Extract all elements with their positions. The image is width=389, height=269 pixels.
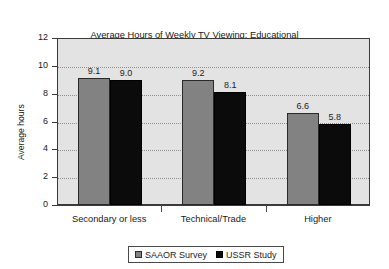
y-axis-title: Average hours (16, 148, 26, 160)
x-axis-tick-mark (161, 205, 162, 212)
bar-value-label: 8.1 (214, 80, 246, 90)
y-axis-tick-label: 4 (8, 143, 48, 153)
bar (287, 113, 319, 205)
bar (110, 80, 142, 205)
x-axis-category-label: Higher (266, 214, 370, 224)
x-axis-category-label: Secondary or less (57, 214, 161, 224)
legend-swatch-icon (216, 251, 223, 258)
y-axis-tick-label: 6 (8, 116, 48, 126)
bars-layer: 9.19.09.28.16.65.8 (57, 38, 370, 205)
bar-value-label: 9.0 (110, 68, 142, 78)
legend-label: SAAOR Survey (145, 250, 207, 260)
legend-entry: USSR Study (216, 250, 277, 260)
x-axis-line (57, 205, 370, 206)
bar-value-label: 5.8 (319, 112, 351, 122)
y-axis-tick-label: 2 (8, 171, 48, 181)
legend-entry: SAAOR Survey (135, 250, 207, 260)
legend-swatch-icon (135, 251, 142, 258)
chart-legend: SAAOR SurveyUSSR Study (128, 246, 284, 263)
bar-value-label: 9.1 (78, 66, 110, 76)
bar (319, 124, 351, 205)
x-axis-category-label: Technical/Trade (161, 214, 265, 224)
bar (214, 92, 246, 205)
bar (78, 78, 110, 205)
y-axis-tick-label: 0 (8, 199, 48, 209)
bar-value-label: 6.6 (287, 101, 319, 111)
bar-value-label: 9.2 (182, 68, 214, 78)
legend-label: USSR Study (226, 250, 277, 260)
x-axis-tick-mark (266, 205, 267, 212)
bar (182, 80, 214, 205)
